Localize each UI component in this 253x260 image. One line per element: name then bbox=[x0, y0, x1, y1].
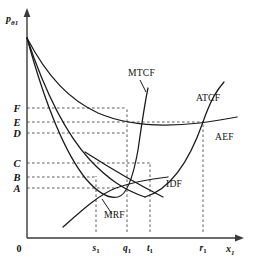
curve-aef bbox=[27, 38, 237, 125]
axis-origin-label: 0 bbox=[17, 243, 22, 254]
axes-group bbox=[24, 8, 244, 241]
economics-cost-curve-chart: pθ1 0 x1 s1 q1 t1 r1 F E D C B A MTCF AT… bbox=[0, 0, 253, 260]
y-axis-arrowhead bbox=[24, 8, 31, 17]
y-tick-labels-group: F E D C B A bbox=[12, 103, 21, 194]
x-tick-labels-group: s1 q1 t1 r1 bbox=[91, 243, 207, 254]
curve-label-mtcf: MTCF bbox=[128, 67, 155, 78]
x-tick-label-t1: t1 bbox=[147, 243, 154, 254]
y-tick-label-C: C bbox=[13, 158, 21, 169]
y-tick-label-E: E bbox=[12, 117, 20, 128]
y-tick-label-D: D bbox=[12, 128, 21, 139]
curve-mtcf bbox=[27, 38, 148, 197]
curve-label-idf: IDF bbox=[166, 178, 182, 189]
curve-labels-group: MTCF ATCF AEF IDF MRF bbox=[104, 67, 234, 220]
y-tick-label-B: B bbox=[12, 172, 20, 183]
x-tick-label-q1: q1 bbox=[123, 243, 132, 254]
x-axis-title: x1 bbox=[225, 243, 235, 257]
figure-container: pθ1 0 x1 s1 q1 t1 r1 F E D C B A MTCF AT… bbox=[0, 0, 253, 260]
curve-label-aef: AEF bbox=[215, 131, 234, 142]
curve-label-mrf: MRF bbox=[104, 209, 125, 220]
leader-mtcf bbox=[140, 80, 146, 92]
leader-lines-group bbox=[102, 80, 146, 214]
x-tick-label-r1: r1 bbox=[199, 243, 207, 254]
y-tick-label-F: F bbox=[12, 103, 20, 114]
y-tick-label-A: A bbox=[12, 183, 20, 194]
x-axis-arrowhead bbox=[235, 235, 244, 242]
curve-label-atcf: ATCF bbox=[196, 92, 220, 103]
curve-atcf-left bbox=[27, 38, 145, 197]
y-axis-title: pθ1 bbox=[5, 13, 18, 27]
x-tick-label-s1: s1 bbox=[91, 243, 100, 254]
